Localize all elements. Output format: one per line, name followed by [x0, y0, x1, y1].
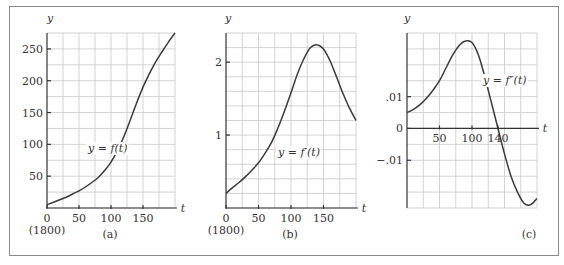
y-tick-label: 0: [396, 122, 403, 135]
curve-label: y = f″(t): [482, 74, 527, 87]
panel-label: (a): [102, 228, 117, 241]
y-tick-label: 1: [215, 129, 222, 142]
x-tick-label: 150: [313, 212, 334, 225]
y-tick-label: .01: [386, 91, 404, 104]
curve-label: y = f′(t): [277, 146, 320, 159]
y-tick-label: 200: [22, 75, 43, 88]
x-origin-year-label: (1800): [29, 224, 66, 237]
curve-label: y = f(t): [87, 142, 128, 155]
panel-label: (b): [282, 228, 298, 241]
y-axis-label: y: [46, 12, 54, 25]
x-axis-label: t: [181, 202, 186, 215]
chart-panel-a: 050100150(1800)50100150200250yty = f(t)(…: [22, 12, 186, 241]
grid-lines: [226, 33, 356, 208]
grid-lines: [407, 33, 537, 208]
figure-svg: 050100150(1800)50100150200250yty = f(t)(…: [0, 0, 564, 265]
x-tick-label: 150: [133, 212, 154, 225]
y-tick-label: 50: [29, 170, 43, 183]
x-axis-label: t: [543, 122, 548, 135]
x-origin-year-label: (1800): [208, 224, 245, 237]
y-tick-label: 250: [22, 43, 43, 56]
x-tick-label: 50: [252, 212, 266, 225]
y-tick-label: 100: [22, 138, 43, 151]
grid-lines: [47, 33, 175, 208]
x-tick-label: 100: [462, 132, 483, 145]
x-tick-label: 50: [72, 212, 86, 225]
chart-panel-c: 50100140.010−.01yty = f″(t)(c): [376, 12, 548, 241]
y-tick-label: 2: [215, 56, 222, 69]
x-tick-label: 50: [433, 132, 447, 145]
x-tick-label: 100: [281, 212, 302, 225]
x-tick-label: 140: [488, 132, 509, 145]
chart-panel-b: 050100150(1800)12yty = f′(t)(b): [208, 12, 367, 241]
panel-label: (c): [522, 228, 537, 241]
x-axis-label: t: [362, 202, 367, 215]
y-axis-label: y: [224, 12, 232, 25]
y-tick-label: 150: [22, 107, 43, 120]
y-tick-label: −.01: [376, 154, 403, 167]
y-axis-label: y: [403, 12, 411, 25]
x-tick-label: 100: [101, 212, 122, 225]
